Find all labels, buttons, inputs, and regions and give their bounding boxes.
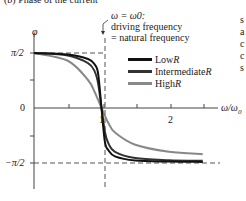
legend-item-low: Low R [128,53,212,65]
y-tick-zero: 0 [20,102,25,113]
x-tick-2: 2 [168,114,173,125]
y-tick-neg-pi-half: −π/2 [5,157,25,168]
y-tick-pi-half: π/2 [11,47,24,58]
legend-item-intermediate: Intermediate R [128,65,212,77]
legend-swatch [128,82,152,85]
annotation-line-1: ω = ω0: [111,10,145,21]
x-tick-1: 1 [99,114,104,125]
legend-swatch [128,58,152,61]
legend-item-high: High R [128,77,212,89]
legend-swatch [128,70,152,73]
cropped-side-text: s a c c s [240,14,244,74]
legend: Low R Intermediate R High R [128,53,212,89]
annotation-line-2: driving frequency [111,21,182,32]
y-axis-label: φ [32,26,38,37]
annotation-line-3: = natural frequency [111,32,189,43]
x-axis-label: ω/ω0 [221,102,241,118]
